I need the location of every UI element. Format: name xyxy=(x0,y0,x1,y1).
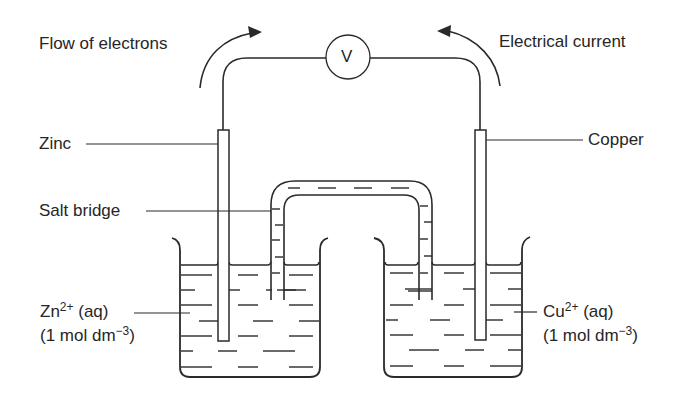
cu-concentration-label: (1 mol dm−3) xyxy=(543,326,638,346)
right-solution-surface xyxy=(385,262,521,265)
zn-charge-text: 2+ xyxy=(60,300,74,314)
left-solution-surface xyxy=(181,262,319,265)
voltmeter-label: V xyxy=(341,47,352,67)
zn-ion-text: Zn xyxy=(40,302,60,321)
zn-state-text: (aq) xyxy=(74,302,109,321)
zn-solution-label: Zn2+ (aq) xyxy=(40,302,109,322)
cu-charge-text: 2+ xyxy=(565,300,579,314)
zn-concentration-label: (1 mol dm−3) xyxy=(40,326,135,346)
cu-ion-text: Cu xyxy=(543,302,565,321)
right-solution-dashes xyxy=(386,273,521,366)
copper-electrode xyxy=(475,130,486,340)
zn-conc-exponent: −3 xyxy=(116,324,130,338)
left-beaker xyxy=(172,238,328,377)
electrical-current-label: Electrical current xyxy=(499,32,626,52)
right-beaker xyxy=(374,237,530,377)
zn-conc-close: ) xyxy=(129,326,135,345)
salt-bridge-label: Salt bridge xyxy=(39,201,120,221)
zn-conc-text: (1 mol dm xyxy=(40,326,116,345)
salt-bridge xyxy=(271,181,432,300)
zinc-electrode xyxy=(218,130,229,341)
copper-label: Copper xyxy=(588,130,644,150)
electron-flow-arrow-icon xyxy=(200,26,262,88)
current-flow-arrow-icon xyxy=(437,25,500,86)
left-solution-dashes xyxy=(181,275,319,367)
external-wire-right xyxy=(370,58,480,130)
zinc-label: Zinc xyxy=(39,134,71,154)
external-wire-left xyxy=(223,58,326,130)
cu-state-text: (aq) xyxy=(578,302,613,321)
cu-conc-text: (1 mol dm xyxy=(543,326,619,345)
flow-of-electrons-label: Flow of electrons xyxy=(39,34,168,54)
cu-solution-label: Cu2+ (aq) xyxy=(543,302,613,322)
cu-conc-exponent: −3 xyxy=(619,324,633,338)
cu-conc-close: ) xyxy=(632,326,638,345)
